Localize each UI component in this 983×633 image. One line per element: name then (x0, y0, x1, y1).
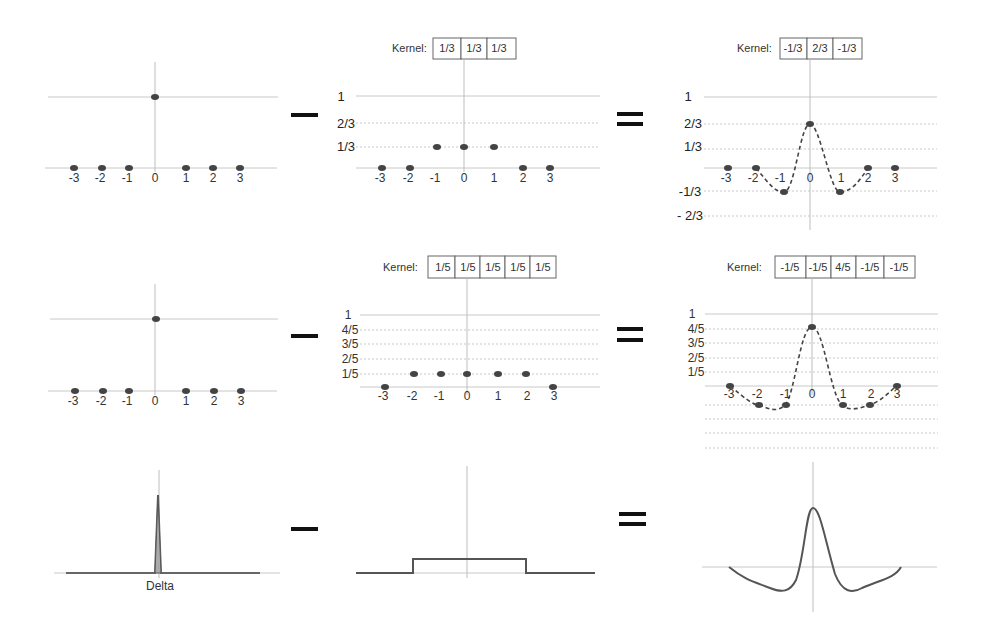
x-tick: -2 (403, 171, 414, 185)
y-tick: 1 (345, 308, 352, 322)
kernel-value: -1/3 (838, 42, 857, 54)
x-tick: -3 (721, 171, 732, 185)
box-filter (356, 559, 595, 573)
kernel-cells: 1/5 1/5 1/5 1/5 1/5 (428, 256, 556, 278)
kernel-value: 1/3 (466, 42, 481, 54)
x-tick: -2 (407, 389, 418, 403)
equals-operator-icon (617, 327, 643, 331)
equals-operator-icon (617, 338, 643, 342)
y-tick: 1/5 (342, 367, 359, 381)
x-tick: -3 (68, 394, 79, 408)
minus-operator-icon (291, 334, 318, 338)
data-point (437, 371, 445, 377)
x-tick: 0 (464, 389, 471, 403)
row1-blur-chart: Kernel: 1/3 1/3 1/3 1 2/3 1/3 -3 -2 -1 0… (337, 38, 600, 185)
equals-operator-icon (619, 522, 646, 526)
x-tick: 0 (152, 171, 159, 185)
x-tick: -1 (122, 394, 133, 408)
x-tick: -3 (378, 389, 389, 403)
mexican-hat-curve (729, 508, 901, 591)
x-tick: 2 (865, 171, 872, 185)
row2-blur-chart: Kernel: 1/5 1/5 1/5 1/5 1/5 1 4/5 3/5 2/… (342, 256, 600, 403)
kernel-value: 1/5 (460, 261, 475, 273)
kernel-label: Kernel: (737, 42, 772, 54)
x-tick: 1 (840, 387, 847, 401)
x-tick: -3 (724, 387, 735, 401)
data-point (522, 371, 530, 377)
minus-operator-icon (291, 527, 318, 531)
x-tick: 3 (237, 171, 244, 185)
data-point (839, 402, 847, 408)
delta-label: Delta (146, 579, 174, 593)
data-point (460, 144, 468, 150)
x-tick: -2 (95, 171, 106, 185)
data-point (780, 189, 788, 195)
data-point (755, 402, 763, 408)
x-tick: 2 (520, 171, 527, 185)
data-point (152, 316, 160, 322)
minus-operator-icon (291, 113, 318, 117)
kernel-value: -1/5 (781, 261, 800, 273)
kernel-value: -1/5 (890, 261, 909, 273)
x-tick: -1 (775, 171, 786, 185)
delta-spike (66, 495, 260, 573)
kernel-value: 1/5 (435, 261, 450, 273)
x-tick: 1 (183, 171, 190, 185)
x-tick: 2 (868, 387, 875, 401)
diagram-canvas: .grid{stroke:#c8c8c8;stroke-width:1;} .d… (0, 0, 983, 633)
kernel-label: Kernel: (727, 261, 762, 273)
kernel-value: 1/5 (510, 261, 525, 273)
y-tick: 2/5 (688, 351, 705, 365)
x-tick: 2 (210, 171, 217, 185)
equals-operator-icon (617, 112, 643, 116)
data-point (151, 94, 159, 100)
equals-operator-icon (619, 512, 646, 516)
data-point (433, 144, 441, 150)
kernel-value: -1/3 (784, 42, 803, 54)
kernel-cells: -1/5 -1/5 4/5 -1/5 -1/5 (775, 256, 915, 278)
x-tick: -3 (375, 171, 386, 185)
data-point (410, 371, 418, 377)
x-tick: -1 (122, 171, 133, 185)
data-point (782, 402, 790, 408)
equals-operator-icon (617, 122, 643, 126)
row3-delta-chart: Delta (54, 470, 280, 593)
kernel-cells: -1/3 2/3 -1/3 (780, 38, 862, 59)
x-tick: 0 (807, 171, 814, 185)
x-tick: 2 (211, 394, 218, 408)
kernel-label: Kernel: (383, 261, 418, 273)
y-tick: 4/5 (342, 323, 359, 337)
x-tick: 1 (491, 171, 498, 185)
x-tick: -1 (780, 387, 791, 401)
x-tick: -2 (748, 171, 759, 185)
x-tick: -2 (752, 387, 763, 401)
x-tick: 3 (547, 171, 554, 185)
kernel-value: 1/5 (485, 261, 500, 273)
data-point (808, 324, 816, 330)
row3-result-chart (702, 462, 937, 612)
data-point (494, 371, 502, 377)
x-tick: 1 (838, 171, 845, 185)
y-tick: 3/5 (688, 336, 705, 350)
y-tick: 2/5 (342, 352, 359, 366)
x-tick: 1 (495, 389, 502, 403)
x-tick: -3 (69, 171, 80, 185)
kernel-value: 1/3 (491, 42, 506, 54)
y-tick: 3/5 (342, 337, 359, 351)
y-tick: 1 (684, 89, 691, 104)
x-tick: 3 (892, 171, 899, 185)
kernel-value: 1/3 (439, 42, 454, 54)
kernel-value: -1/5 (861, 261, 880, 273)
data-point (836, 189, 844, 195)
data-point (490, 144, 498, 150)
row3-blur-chart (356, 466, 595, 578)
data-point (806, 121, 814, 127)
y-tick: 1/5 (688, 365, 705, 379)
y-tick: 2/3 (337, 116, 355, 131)
kernel-value: 1/5 (535, 261, 550, 273)
y-tick: -1/3 (679, 184, 701, 199)
x-tick: -1 (430, 171, 441, 185)
data-point (866, 402, 874, 408)
y-tick: 1 (689, 307, 696, 321)
kernel-value: 2/3 (812, 42, 827, 54)
